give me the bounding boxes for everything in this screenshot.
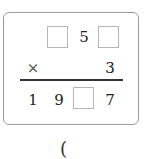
product-hundreds-digit: 9 bbox=[52, 91, 66, 109]
blank-multiplicand-ones[interactable] bbox=[98, 26, 119, 48]
blank-product-tens[interactable] bbox=[73, 87, 94, 109]
answer-paren: ( bbox=[60, 138, 67, 159]
product-thousands-digit: 1 bbox=[26, 91, 40, 109]
multiplicand-tens-digit: 5 bbox=[77, 28, 91, 46]
blank-multiplicand-hundreds[interactable] bbox=[47, 26, 68, 48]
product-ones-digit: 7 bbox=[103, 91, 117, 109]
multiply-sign: × bbox=[26, 59, 40, 77]
multiplier-digit: 3 bbox=[103, 59, 117, 77]
sum-rule bbox=[20, 79, 123, 81]
